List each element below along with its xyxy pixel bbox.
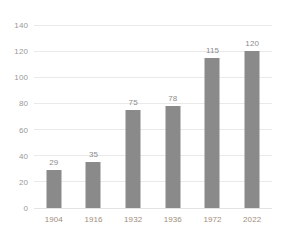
bar-value-label: 29 (49, 158, 58, 167)
x-axis-tick-label: 1932 (124, 215, 142, 224)
bar[interactable] (46, 170, 61, 208)
bar-group: 351916 (74, 25, 114, 208)
y-axis-tick-label: 140 (14, 21, 28, 30)
bar[interactable] (205, 58, 220, 208)
bar-value-label: 78 (168, 94, 177, 103)
y-axis-tick-label: 0 (23, 204, 28, 213)
x-axis-tick-label: 1904 (45, 215, 63, 224)
bar-series: 29190435191675193278193611519721202022 (34, 25, 272, 208)
bar-chart: 020406080100120140 291904351916751932781… (0, 0, 291, 246)
x-axis-tick-label: 1936 (164, 215, 182, 224)
x-axis-tick-label: 1972 (203, 215, 221, 224)
x-axis-tick-label: 1916 (84, 215, 102, 224)
plot-area: 020406080100120140 291904351916751932781… (34, 25, 272, 208)
bar-group: 291904 (34, 25, 74, 208)
bar-group: 781936 (153, 25, 193, 208)
bar-value-label: 75 (129, 98, 138, 107)
y-axis-tick-label: 60 (19, 125, 28, 134)
bar-group: 1151972 (193, 25, 233, 208)
x-axis-tick-label: 2022 (243, 215, 261, 224)
bar-value-label: 35 (89, 150, 98, 159)
bar[interactable] (245, 51, 260, 208)
chart-title (4, 0, 204, 5)
bar[interactable] (86, 162, 101, 208)
y-axis-tick-label: 80 (19, 99, 28, 108)
bar-value-label: 120 (245, 39, 259, 48)
y-axis-tick-label: 100 (14, 73, 28, 82)
y-axis-tick-label: 120 (14, 47, 28, 56)
bar-group: 1202022 (232, 25, 272, 208)
bar[interactable] (165, 106, 180, 208)
y-axis-tick-label: 40 (19, 151, 28, 160)
bar-group: 751932 (113, 25, 153, 208)
y-axis-tick-label: 20 (19, 177, 28, 186)
bar[interactable] (126, 110, 141, 208)
bar-value-label: 115 (206, 46, 219, 55)
